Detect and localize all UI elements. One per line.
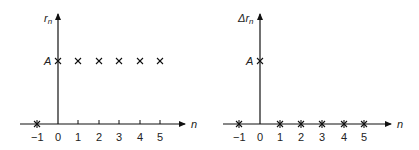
svg-text:−1: −1 <box>31 131 44 143</box>
svg-text:5: 5 <box>361 131 367 143</box>
svg-text:0: 0 <box>55 131 61 143</box>
x-marker-icon <box>137 58 143 64</box>
left-y-label: rn <box>44 12 53 26</box>
right-chart: Δrn n A −1 0 1 2 3 4 5 <box>223 12 403 143</box>
svg-text:5: 5 <box>157 131 163 143</box>
figure: rn n A −1 0 1 2 3 4 5 <box>0 0 419 150</box>
svg-text:3: 3 <box>319 131 325 143</box>
svg-text:1: 1 <box>277 131 283 143</box>
right-tick-labels: −1 0 1 2 3 4 5 <box>233 131 367 143</box>
left-chart: rn n A −1 0 1 2 3 4 5 <box>20 12 197 143</box>
svg-text:2: 2 <box>96 131 102 143</box>
right-level-label: A <box>245 55 253 67</box>
left-x-label: n <box>191 118 197 130</box>
x-marker-icon <box>96 58 102 64</box>
svg-text:4: 4 <box>341 131 347 143</box>
right-x-label: n <box>397 118 403 130</box>
left-level-label: A <box>43 55 51 67</box>
right-y-label: Δrn <box>237 12 254 26</box>
left-tick-labels: −1 0 1 2 3 4 5 <box>31 131 163 143</box>
svg-text:3: 3 <box>116 131 122 143</box>
svg-text:1: 1 <box>75 131 81 143</box>
svg-text:0: 0 <box>257 131 263 143</box>
svg-text:2: 2 <box>298 131 304 143</box>
right-data-markers <box>236 58 367 128</box>
x-marker-icon <box>75 58 81 64</box>
x-marker-icon <box>116 58 122 64</box>
svg-text:−1: −1 <box>233 131 246 143</box>
svg-text:4: 4 <box>137 131 143 143</box>
left-data-markers <box>34 58 163 128</box>
x-marker-icon <box>157 58 163 64</box>
